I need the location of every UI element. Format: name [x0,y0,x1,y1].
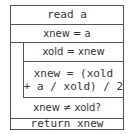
block-update: xnew = (xold + a / xold) / 2 [24,62,123,97]
block-save: xold = xnew [24,43,123,61]
block-init: xnew = a [11,25,123,42]
block-read: read a [11,6,123,24]
block-return: return xnew [11,119,123,129]
loop-condition: xnew ≠ xold? [11,98,123,118]
